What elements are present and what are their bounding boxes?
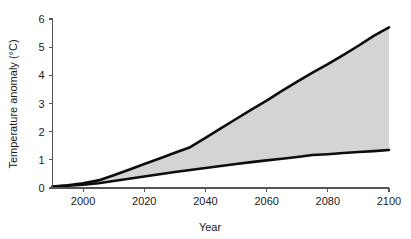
- y-tick-label: 5: [38, 41, 44, 53]
- y-axis-tick-labels: 0123456: [38, 13, 44, 194]
- y-tick-label: 6: [38, 13, 44, 25]
- y-axis-title: Temperature anomaly (°C): [7, 39, 19, 168]
- chart-figure: 0123456 200020202040206020802100 Year Te…: [0, 0, 411, 239]
- y-axis-ticks: [49, 19, 53, 188]
- x-tick-label: 2060: [254, 195, 278, 207]
- y-tick-label: 0: [38, 182, 44, 194]
- uncertainty-band-area: [53, 27, 390, 186]
- y-tick-label: 2: [38, 126, 44, 138]
- x-tick-label: 2100: [377, 195, 401, 207]
- y-tick-label: 4: [38, 69, 44, 81]
- x-tick-label: 2020: [132, 195, 156, 207]
- x-tick-label: 2040: [193, 195, 217, 207]
- x-axis-tick-labels: 200020202040206020802100: [71, 195, 401, 207]
- chart-svg: 0123456 200020202040206020802100 Year Te…: [0, 0, 411, 239]
- x-axis-ticks: [83, 188, 389, 192]
- x-axis-title: Year: [199, 221, 222, 233]
- x-tick-label: 2080: [316, 195, 340, 207]
- y-tick-label: 3: [38, 98, 44, 110]
- y-tick-label: 1: [38, 154, 44, 166]
- x-tick-label: 2000: [71, 195, 95, 207]
